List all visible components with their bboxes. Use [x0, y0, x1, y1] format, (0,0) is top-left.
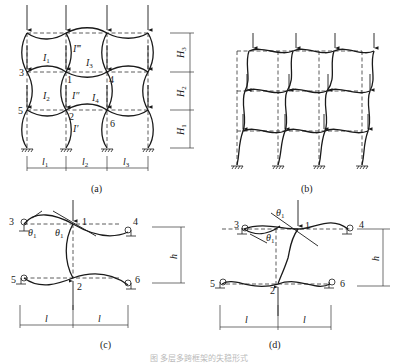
panel-d-pin-supports [215, 225, 353, 288]
node-label-2: 2 [270, 285, 275, 296]
panel-d-antisymmetric-submodel: 1 2 3 4 5 6 θ1 θ1 h l l (d) [210, 200, 390, 351]
height-label-H2: H2 [175, 86, 188, 98]
angle-label-theta1: θ1 [276, 207, 285, 220]
span-label-l1: l1 [42, 156, 49, 169]
pin-support-icon [125, 227, 136, 236]
span-label-l2: l2 [82, 156, 89, 169]
height-label-H1: H1 [175, 124, 188, 136]
column-inertia-top: I‴ [72, 43, 81, 54]
fixed-support-icon [272, 166, 284, 169]
angle-label-theta1: θ1 [55, 227, 64, 240]
node-label-1: 1 [82, 216, 87, 227]
beam-inertia-I2: I2 [42, 90, 50, 103]
panel-c-dimensions: h l l [20, 227, 185, 328]
panel-b-load-arrows [243, 33, 374, 129]
panel-d-deformed-members [222, 213, 348, 286]
angle-label-theta1: θ1 [266, 232, 275, 245]
node-label-6: 6 [110, 118, 115, 129]
panel-b-sway-buckling: (b) [231, 33, 374, 195]
figure-caption: 图 多层多跨框架的失稳形式 [150, 353, 248, 363]
panel-d-labels: 1 2 3 4 5 6 θ1 θ1 [210, 207, 364, 296]
node-label-4: 4 [133, 216, 138, 227]
panel-a-node-labels: 1 2 3 4 5 6 [18, 67, 115, 129]
node-label-3: 3 [9, 216, 14, 227]
height-label-h: h [370, 256, 381, 261]
pin-support-icon [324, 279, 335, 288]
panel-b-fixed-supports [231, 166, 368, 169]
node-label-6: 6 [135, 274, 140, 285]
panel-b-deformed-columns [237, 51, 374, 165]
column-inertia-middle: I″ [71, 90, 80, 101]
fixed-support-icon [101, 149, 113, 152]
panel-b-caption: (b) [301, 183, 313, 195]
node-label-1: 1 [305, 220, 310, 231]
panel-c-reference-lines [24, 224, 120, 278]
beam-inertia-I1: I1 [42, 52, 50, 65]
frame-buckling-figure: 1 2 3 4 5 6 I1 I2 I3 I4 I‴ I″ I′ H3 H2 H… [0, 0, 398, 364]
panel-c-deformed-members [24, 211, 128, 285]
height-label-H3: H3 [175, 47, 188, 59]
node-label-5: 5 [18, 105, 23, 116]
beam-inertia-I4: I4 [91, 92, 99, 105]
fixed-support-icon [313, 166, 325, 169]
fixed-support-icon [231, 166, 243, 169]
panel-d-dimensions: h l l [220, 229, 390, 330]
node-label-2: 2 [69, 111, 74, 122]
span-label-l: l [98, 313, 101, 324]
panel-a-symmetric-buckling: 1 2 3 4 5 6 I1 I2 I3 I4 I‴ I″ I′ H3 H2 H… [18, 5, 194, 195]
panel-a-fixed-supports [21, 149, 154, 152]
panel-b-undeformed-frame [237, 51, 362, 165]
panel-c-caption: (c) [100, 339, 111, 351]
beam-inertia-I3: I3 [85, 57, 93, 70]
fixed-support-icon [21, 149, 33, 152]
node-label-3: 3 [234, 219, 239, 230]
height-label-h: h [168, 254, 179, 259]
span-label-l3: l3 [123, 156, 130, 169]
node-label-4: 4 [359, 219, 364, 230]
node-label-6: 6 [340, 278, 345, 289]
panel-a-deformed-columns [22, 33, 154, 148]
panel-d-caption: (d) [269, 339, 281, 351]
node-label-4: 4 [109, 74, 114, 85]
node-label-5: 5 [210, 278, 215, 289]
span-label-l: l [45, 313, 48, 324]
node-label-3: 3 [19, 67, 24, 78]
node-label-1: 1 [67, 74, 72, 85]
node-label-5: 5 [11, 274, 16, 285]
panel-a-caption: (a) [91, 183, 102, 195]
angle-label-theta1: θ1 [28, 227, 37, 240]
span-label-l: l [303, 314, 306, 325]
node-label-2: 2 [77, 281, 82, 292]
fixed-support-icon [60, 149, 72, 152]
fixed-support-icon [356, 166, 368, 169]
panel-d-reference-lines [222, 229, 350, 284]
panel-a-height-dimension: H3 H2 H1 [170, 33, 194, 148]
panel-c-symmetric-submodel: 1 2 3 4 5 6 θ1 θ1 h l l (c) [9, 200, 185, 351]
fixed-support-icon [142, 149, 154, 152]
column-inertia-bottom: I′ [72, 123, 79, 134]
span-label-l: l [245, 314, 248, 325]
panel-a-span-dimension: l1 l2 l3 [27, 156, 148, 171]
